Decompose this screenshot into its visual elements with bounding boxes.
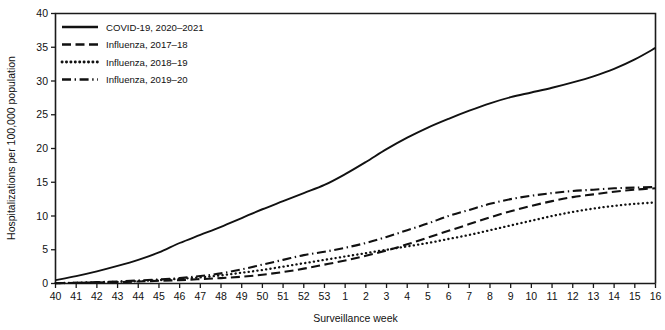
x-tick-label: 48	[215, 290, 227, 302]
x-tick-label: 41	[70, 290, 82, 302]
chart-canvas: 0510152025303540 40414243444546474849505…	[0, 0, 665, 330]
legend-label-3: Influenza, 2018–19	[106, 57, 188, 68]
x-tick-label: 40	[50, 290, 62, 302]
x-tick-label: 15	[629, 290, 641, 302]
y-tick-label: 10	[36, 210, 48, 222]
plot-frame	[56, 14, 656, 284]
y-tick-label: 35	[36, 41, 48, 53]
y-tick-label: 30	[36, 75, 48, 87]
y-axis-title: Hospitalizations per 100,000 population	[5, 56, 17, 240]
x-tick-label: 16	[650, 290, 662, 302]
x-axis-title: Surveillance week	[313, 312, 398, 324]
x-tick-label: 2	[363, 290, 369, 302]
x-tick-label: 42	[91, 290, 103, 302]
y-tick-label: 40	[36, 7, 48, 19]
x-tick-label: 12	[567, 290, 579, 302]
x-tick-label: 9	[508, 290, 514, 302]
x-tick-label: 11	[547, 290, 558, 302]
y-tick-label: 15	[36, 176, 48, 188]
x-tick-label: 50	[257, 290, 269, 302]
series-line-3	[56, 203, 656, 284]
x-tick-label: 1	[342, 290, 348, 302]
x-tick-label: 10	[526, 290, 538, 302]
x-tick-label: 8	[487, 290, 493, 302]
series-line-4	[56, 187, 656, 283]
x-tick-label: 47	[194, 290, 206, 302]
x-tick-label: 52	[298, 290, 310, 302]
x-tick-label: 13	[588, 290, 600, 302]
y-tick-label: 5	[42, 243, 48, 255]
y-tick-label: 20	[36, 142, 48, 154]
x-tick-label: 7	[466, 290, 472, 302]
x-axis-ticks: 4041424344454647484950515253123456789101…	[50, 284, 662, 303]
x-tick-label: 3	[384, 290, 390, 302]
x-tick-label: 45	[153, 290, 165, 302]
x-tick-label: 51	[277, 290, 289, 302]
x-tick-label: 49	[236, 290, 248, 302]
x-tick-label: 46	[174, 290, 186, 302]
x-tick-label: 43	[112, 290, 124, 302]
line-chart: 0510152025303540 40414243444546474849505…	[0, 0, 665, 330]
x-tick-label: 14	[608, 290, 620, 302]
y-axis-ticks: 0510152025303540	[36, 7, 55, 289]
x-tick-label: 44	[132, 290, 144, 302]
x-tick-label: 4	[404, 290, 410, 302]
series-line-2	[56, 188, 656, 283]
y-tick-label: 0	[42, 277, 48, 289]
chart-legend: COVID-19, 2020–2021Influenza, 2017–18Inf…	[62, 22, 204, 86]
legend-label-2: Influenza, 2017–18	[106, 39, 188, 50]
legend-label-1: COVID-19, 2020–2021	[106, 22, 204, 33]
y-tick-label: 25	[36, 108, 48, 120]
x-tick-label: 53	[319, 290, 331, 302]
legend-label-4: Influenza, 2019–20	[106, 74, 188, 85]
x-tick-label: 5	[425, 290, 431, 302]
x-tick-label: 6	[446, 290, 452, 302]
